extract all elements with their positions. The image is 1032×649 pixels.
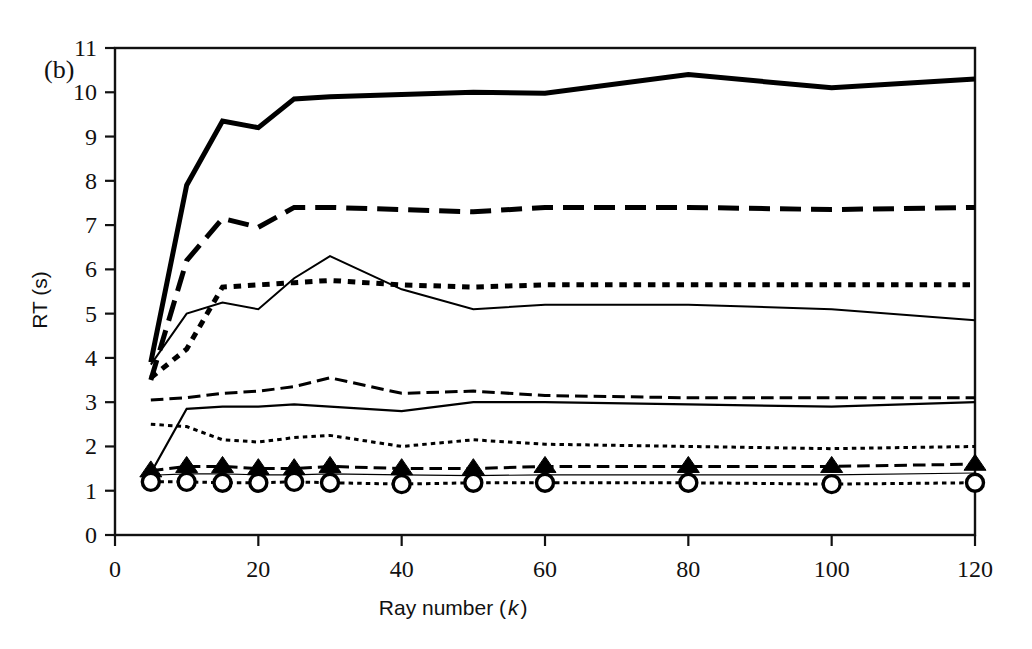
marker-circle [680,474,697,491]
y-tick-label-4: 4 [85,345,97,371]
marker-circle [537,474,554,491]
marker-triangle [964,454,986,470]
x-tick-label-20: 20 [246,556,270,582]
marker-circle [142,473,159,490]
x-tick-label-80: 80 [676,556,700,582]
panel-label: (b) [44,55,74,84]
y-tick-label-5: 5 [85,301,97,327]
x-axis-title: Ray number ( [379,596,506,619]
marker-triangle [319,456,341,472]
marker-circle [322,474,339,491]
x-axis-tick-labels: 020406080100120 [109,556,993,582]
marker-triangle [212,456,234,472]
series-8-dashed-triangle [151,464,975,471]
marker-circle [214,474,231,491]
marker-triangle [677,456,699,472]
marker-triangle [534,456,556,472]
marker-circle [178,473,195,490]
y-tick-label-6: 6 [85,256,97,282]
marker-circle [286,473,303,490]
x-axis-title-variable: k [508,596,520,619]
series-6-thin-solid-low [151,402,975,473]
y-tick-label-10: 10 [73,79,97,105]
marker-triangle [176,456,198,472]
y-axis-tick-labels: 01234567891011 [73,35,97,548]
marker-circle [823,476,840,493]
figure-panel-b: 01234567891011 020406080100120 RT (s) Ra… [0,0,1032,649]
y-tick-label-0: 0 [85,522,97,548]
y-axis-ticks [105,48,115,535]
marker-circle [393,476,410,493]
series-9-thin-solid-triangle [151,473,975,476]
marker-circle [465,474,482,491]
y-tick-label-9: 9 [85,124,97,150]
series-10-dotted-circle [151,482,975,484]
series-5-medium-dashed [151,378,975,400]
y-axis-title: RT (s) [28,271,51,329]
y-tick-label-1: 1 [85,478,97,504]
marker-circle [250,474,267,491]
y-tick-label-3: 3 [85,389,97,415]
y-tick-label-8: 8 [85,168,97,194]
series-3-thin-solid [151,256,975,364]
x-axis-title-close-paren: ) [521,596,528,619]
marker-triangle [391,459,413,475]
chart-canvas: 01234567891011 020406080100120 RT (s) Ra… [0,0,1032,649]
series-2-thick-dashed [151,207,975,380]
marker-triangle [821,456,843,472]
marker-circle [967,474,984,491]
data-marker-group [140,454,986,492]
x-tick-label-0: 0 [109,556,121,582]
x-tick-label-40: 40 [390,556,414,582]
series-7-fine-dotted [151,424,975,448]
marker-triangle [462,459,484,475]
x-axis-ticks [115,535,975,546]
y-tick-label-2: 2 [85,433,97,459]
y-tick-label-11: 11 [74,35,97,61]
y-tick-label-7: 7 [85,212,97,238]
x-tick-label-60: 60 [533,556,557,582]
x-tick-label-100: 100 [814,556,850,582]
x-tick-label-120: 120 [957,556,993,582]
data-series-group [151,75,975,485]
